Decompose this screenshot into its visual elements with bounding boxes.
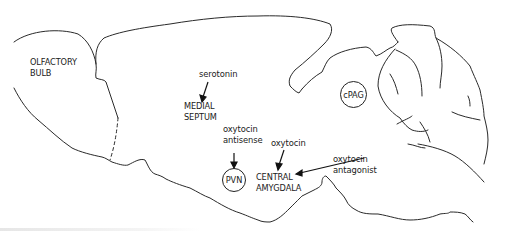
oxytocin-antagonist-label-line1: oxytocin [333, 154, 377, 165]
cerebellum-inner-fold-4 [390, 74, 398, 94]
brainstem-outline [418, 144, 484, 182]
pvn-circle-label: PVN [222, 168, 246, 192]
central-amygdala-label-line1: CENTRAL [256, 172, 301, 183]
cerebellum-inner-fold-1 [378, 49, 428, 132]
cerebellum-inner-fold-2 [396, 50, 422, 96]
cerebellum-inner-fold-5 [468, 96, 470, 106]
oxytocin-antagonist-label-line2: antagonist [333, 165, 377, 176]
oxytocin-label: oxytocin [271, 138, 306, 149]
olfactory-bulb-label: OLFACTORY BULB [30, 57, 77, 79]
oxytocin-antisense-label-line2: antisense [223, 135, 263, 146]
olfactory-bulb-label-line1: OLFACTORY [30, 57, 77, 68]
olfactory-bulb-label-line2: BULB [30, 68, 77, 79]
olfactory-bulb-lower-outline [14, 88, 38, 120]
scan-artifact-strip [0, 228, 200, 231]
cerebellum-outer-outline [391, 25, 488, 164]
cerebellum-inner-fold-3 [436, 38, 442, 88]
central-amygdala-label-line2: AMYGDALA [256, 183, 301, 194]
dashed-boundary-line [110, 118, 118, 160]
oxytocin-arrow [279, 150, 284, 165]
medial-septum-label-line1: MEDIAL [184, 101, 217, 112]
cpag-circle-label: cPAG [340, 81, 367, 108]
oxytocin-antagonist-label: oxytocin antagonist [333, 154, 377, 176]
central-amygdala-label: CENTRAL AMYGDALA [256, 172, 301, 194]
oxytocin-arrowhead [276, 163, 282, 170]
serotonin-arrow [203, 82, 208, 97]
brain-outline-diagram [0, 0, 512, 239]
cortex-dorsal-outline [96, 16, 332, 93]
serotonin-label: serotonin [199, 69, 237, 80]
oxytocin-antisense-label-line1: oxytocin [223, 124, 263, 135]
medial-septum-label-line2: SEPTUM [184, 112, 217, 123]
oxytocin-antisense-label: oxytocin antisense [223, 124, 263, 146]
cerebellum-inner-fold-6 [452, 112, 480, 120]
medial-septum-label: MEDIAL SEPTUM [184, 101, 217, 123]
